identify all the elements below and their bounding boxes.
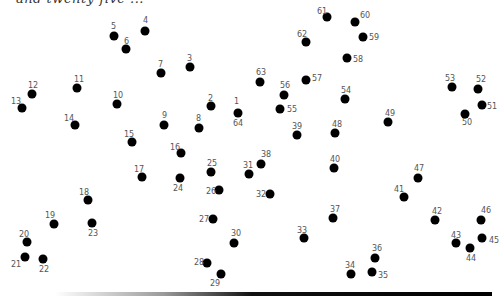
- puzzle-dot: [28, 90, 37, 99]
- dot-number-label: 62: [297, 31, 307, 39]
- puzzle-dot: [302, 76, 311, 85]
- puzzle-dot: [186, 63, 195, 72]
- dot-number-label: 59: [369, 34, 379, 42]
- dot-number-label: 56: [280, 82, 290, 90]
- puzzle-dot: [230, 239, 239, 248]
- dot-number-label: 36: [372, 245, 382, 253]
- dot-number-label: 30: [231, 230, 241, 238]
- dot-number-label: 24: [173, 185, 183, 193]
- puzzle-dot: [195, 124, 204, 133]
- dot-number-label: 23: [88, 230, 98, 238]
- dot-number-label: 14: [64, 115, 74, 123]
- puzzle-dot: [73, 84, 82, 93]
- dot-number-label: 47: [414, 165, 424, 173]
- puzzle-dot: [276, 105, 285, 114]
- puzzle-dot: [329, 214, 338, 223]
- dot-number-label: 41: [394, 186, 404, 194]
- dot-number-label: 51: [487, 103, 497, 111]
- dot-number-label: 40: [330, 156, 340, 164]
- puzzle-dot: [157, 69, 166, 78]
- puzzle-dot: [141, 27, 150, 36]
- dot-number-label: 17: [134, 166, 144, 174]
- puzzle-dot: [359, 33, 368, 42]
- dot-number-label: 4: [143, 17, 148, 25]
- puzzle-dot: [347, 270, 356, 279]
- puzzle-dot: [113, 100, 122, 109]
- puzzle-dot: [293, 131, 302, 140]
- puzzle-dot: [256, 78, 265, 87]
- dot-number-label: 20: [19, 231, 29, 239]
- dot-number-label: 25: [207, 160, 217, 168]
- dot-number-label: 58: [353, 56, 363, 64]
- dot-number-label: 22: [39, 266, 49, 274]
- puzzle-dot: [21, 253, 30, 262]
- dot-number-label: 13: [11, 98, 21, 106]
- puzzle-dot: [50, 220, 59, 229]
- puzzle-dot: [474, 85, 483, 94]
- puzzle-dot: [209, 215, 218, 224]
- dot-number-label: 18: [79, 189, 89, 197]
- dot-number-label: 11: [74, 76, 84, 84]
- puzzle-dot: [110, 32, 119, 41]
- bottom-rule-divider: [55, 292, 492, 296]
- dot-number-label: 34: [345, 262, 355, 270]
- puzzle-dot: [217, 270, 226, 279]
- puzzle-dot: [257, 160, 266, 169]
- dot-number-label: 57: [312, 75, 322, 83]
- dot-number-label: 43: [451, 232, 461, 240]
- puzzle-dot: [477, 216, 486, 225]
- puzzle-dot: [39, 255, 48, 264]
- dot-number-label: 19: [45, 212, 55, 220]
- dot-number-label: 63: [256, 69, 266, 77]
- dot-number-label: 39: [292, 123, 302, 131]
- dot-number-label: 9: [162, 112, 167, 120]
- puzzle-dot: [368, 268, 377, 277]
- instruction-caption: and twenty-five ...: [16, 0, 144, 6]
- dot-number-label: 26: [206, 188, 216, 196]
- dot-number-label: 38: [261, 151, 271, 159]
- dot-number-label: 37: [330, 206, 340, 214]
- dot-number-label: 45: [489, 237, 499, 245]
- dot-number-label: 7: [158, 61, 163, 69]
- puzzle-dot: [414, 174, 423, 183]
- dot-number-label: 48: [332, 121, 342, 129]
- dot-number-label: 33: [297, 227, 307, 235]
- dot-number-label: 28: [194, 259, 204, 267]
- puzzle-dot: [466, 244, 475, 253]
- dot-number-label: 61: [317, 8, 327, 16]
- puzzle-dot: [176, 174, 185, 183]
- puzzle-dot: [280, 91, 289, 100]
- dot-number-label: 46: [481, 207, 491, 215]
- dot-number-label: 54: [341, 87, 351, 95]
- puzzle-dot: [88, 219, 97, 228]
- puzzle-dot: [448, 83, 457, 92]
- dot-number-label: 1: [234, 98, 239, 106]
- dot-number-label: 31: [243, 162, 253, 170]
- dot-number-label: 64: [233, 120, 243, 128]
- dot-number-label: 32: [256, 191, 266, 199]
- puzzle-dot: [431, 216, 440, 225]
- dot-number-label: 35: [378, 272, 388, 280]
- dot-number-label: 53: [445, 75, 455, 83]
- dot-number-label: 8: [196, 115, 201, 123]
- dot-number-label: 52: [476, 76, 486, 84]
- puzzle-dot: [330, 164, 339, 173]
- puzzle-dot: [341, 95, 350, 104]
- dot-number-label: 15: [124, 131, 134, 139]
- dot-number-label: 50: [462, 119, 472, 127]
- dot-number-label: 6: [124, 38, 129, 46]
- puzzle-dot: [331, 129, 340, 138]
- dot-number-label: 49: [385, 110, 395, 118]
- puzzle-dot: [245, 170, 254, 179]
- puzzle-dot: [371, 254, 380, 263]
- dot-number-label: 16: [170, 144, 180, 152]
- dot-number-label: 60: [360, 12, 370, 20]
- dot-number-label: 3: [187, 55, 192, 63]
- dot-number-label: 5: [111, 23, 116, 31]
- puzzle-dot: [234, 109, 243, 118]
- dot-number-label: 55: [287, 106, 297, 114]
- puzzle-dot: [207, 168, 216, 177]
- dot-number-label: 2: [208, 95, 213, 103]
- puzzle-dot: [384, 118, 393, 127]
- puzzle-dot: [343, 54, 352, 63]
